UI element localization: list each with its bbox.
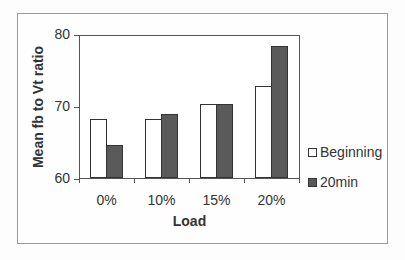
- bar-20min-15pct: [216, 104, 233, 178]
- legend-swatch-20min: [308, 178, 317, 187]
- x-tick: [299, 179, 300, 183]
- legend: Beginning 20min: [308, 143, 382, 203]
- y-tick-label-70: 70: [40, 98, 70, 114]
- legend-item-beginning: Beginning: [308, 143, 382, 161]
- bar-beginning-20pct: [255, 86, 272, 178]
- legend-label-beginning: Beginning: [320, 144, 382, 160]
- x-tick-label-0: 0%: [79, 192, 134, 208]
- bar-20min-10pct: [161, 114, 178, 178]
- bar-beginning-0pct: [90, 119, 107, 178]
- x-tick: [134, 179, 135, 183]
- legend-label-20min: 20min: [320, 174, 358, 190]
- x-tick-label-15: 15%: [189, 192, 244, 208]
- y-tick-label-80: 80: [40, 26, 70, 42]
- x-tick: [189, 179, 190, 183]
- x-tick: [244, 179, 245, 183]
- bar-20min-0pct: [106, 145, 123, 178]
- bar-beginning-15pct: [200, 104, 217, 178]
- x-tick: [79, 179, 80, 183]
- x-axis-title: Load: [79, 213, 300, 229]
- y-tick-label-60: 60: [40, 170, 70, 186]
- legend-swatch-beginning: [308, 148, 317, 157]
- x-tick-label-10: 10%: [134, 192, 189, 208]
- x-tick-label-20: 20%: [244, 192, 299, 208]
- bar-beginning-10pct: [145, 119, 162, 178]
- plot-area: [79, 35, 300, 179]
- legend-item-20min: 20min: [308, 173, 382, 191]
- bar-20min-20pct: [271, 46, 288, 178]
